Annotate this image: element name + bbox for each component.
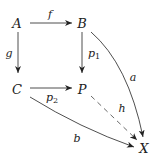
label-p2-sub: 2 — [53, 96, 58, 105]
node-A: A — [12, 17, 21, 30]
node-C: C — [12, 83, 22, 96]
label-h: h — [118, 103, 125, 114]
node-P: P — [78, 83, 87, 96]
label-p1-main: p — [88, 47, 95, 60]
label-p1: p1 — [88, 48, 100, 61]
label-b: b — [73, 133, 80, 144]
label-p2-main: p — [46, 91, 53, 104]
arrow-h — [91, 96, 137, 140]
label-p1-sub: 1 — [95, 52, 100, 61]
node-B: B — [77, 17, 87, 30]
label-p2: p2 — [46, 92, 58, 105]
label-g: g — [5, 48, 12, 59]
label-f: f — [48, 9, 52, 20]
label-a: a — [130, 72, 137, 83]
node-X: X — [139, 142, 148, 155]
